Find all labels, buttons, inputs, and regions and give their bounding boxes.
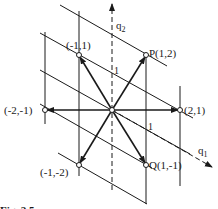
grid-line <box>58 153 147 204</box>
q2-unit-label: 1 <box>114 65 119 76</box>
label-p: P(1,2) <box>149 47 177 60</box>
point-p <box>144 53 149 58</box>
vector-n1n2 <box>80 110 112 163</box>
point-n1n2 <box>77 163 82 168</box>
vector-n1p1 <box>80 57 112 110</box>
point-n1p1 <box>77 53 82 58</box>
label-p2p1: (2,1) <box>184 104 205 117</box>
label-q: Q(1,-1) <box>149 159 182 172</box>
figure-caption: Fig. 2.5 <box>0 204 35 209</box>
point-n2n1 <box>43 108 48 113</box>
label-n2n1: (-2,-1) <box>4 104 33 117</box>
lattice-diagram: q2 q1 1 1 P(1,2) Q(1,-1) (-1,1) (2,1) (-… <box>0 0 218 209</box>
origin-point <box>110 108 115 113</box>
q2-axis-label: q2 <box>116 19 126 34</box>
label-n1p1: (-1,1) <box>66 39 91 52</box>
q1-unit-label: 1 <box>148 121 153 132</box>
label-n1n2: (-1,-2) <box>40 166 69 179</box>
q1-axis-label: q1 <box>198 144 208 159</box>
point-p2p1 <box>178 108 183 113</box>
point-q <box>144 163 149 168</box>
